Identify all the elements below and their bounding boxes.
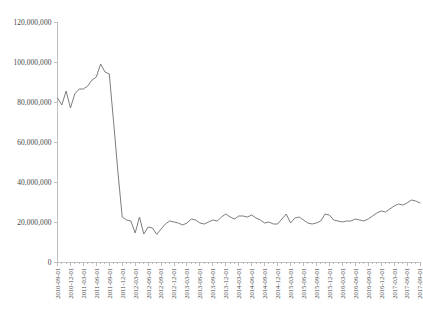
x-tick-label: 2013-12-01 [222, 268, 229, 299]
x-tick-label: 2011-06-01 [93, 268, 100, 299]
chart-container: 120,000,000100,000,00080,000,00060,000,0… [0, 0, 423, 325]
line-chart: 120,000,000100,000,00080,000,00060,000,0… [0, 0, 423, 325]
x-tick-label: 2010-12-01 [67, 268, 74, 299]
x-tick-label: 2016-06-01 [352, 268, 359, 299]
x-tick-label: 2012-06-01 [145, 268, 152, 299]
x-tick-label: 2011-09-01 [106, 268, 113, 299]
x-tick-label: 2016-12-01 [378, 268, 385, 299]
x-tick-label: 2014-09-01 [261, 268, 268, 299]
x-tick-label: 2017-06-01 [403, 268, 410, 299]
y-tick-label: 20,000,000 [17, 218, 51, 227]
x-tick-label: 2013-03-01 [183, 268, 190, 299]
y-tick-label: 120,000,000 [13, 18, 51, 27]
y-tick-label: 60,000,000 [17, 138, 51, 147]
x-tick-label: 2014-03-01 [235, 268, 242, 299]
x-tick-label: 2015-12-01 [326, 268, 333, 299]
y-tick-label: 100,000,000 [13, 58, 51, 67]
x-tick-label: 2017-09-01 [416, 268, 423, 299]
x-tick-label: 2013-06-01 [196, 268, 203, 299]
x-tick-label: 2016-03-01 [339, 268, 346, 299]
y-tick-label: 80,000,000 [17, 98, 51, 107]
y-tick-label: 40,000,000 [17, 178, 51, 187]
x-tick-label: 2011-12-01 [119, 268, 126, 299]
x-tick-label: 2013-09-01 [209, 268, 216, 299]
x-tick-label: 2010-09-01 [54, 268, 61, 299]
x-tick-label: 2016-09-01 [365, 268, 372, 299]
x-tick-label: 2011-03-01 [80, 268, 87, 299]
x-tick-label: 2017-03-01 [391, 268, 398, 299]
x-tick-label: 2014-06-01 [248, 268, 255, 299]
y-tick-label: 0 [48, 258, 52, 267]
x-tick-label: 2012-03-01 [132, 268, 139, 299]
x-tick-label: 2015-03-01 [287, 268, 294, 299]
x-tick-label: 2012-12-01 [170, 268, 177, 299]
x-tick-label: 2014-12-01 [274, 268, 281, 299]
x-tick-label: 2012-09-01 [157, 268, 164, 299]
x-tick-label: 2015-06-01 [300, 268, 307, 299]
x-tick-label: 2015-09-01 [313, 268, 320, 299]
